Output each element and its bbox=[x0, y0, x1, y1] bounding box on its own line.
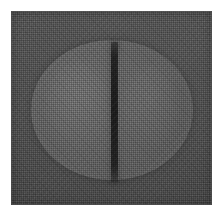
disc-highlight-right bbox=[123, 65, 179, 147]
score-line-edge-highlight bbox=[118, 44, 121, 178]
photo-plate bbox=[11, 11, 212, 205]
scan-page bbox=[0, 0, 224, 216]
disc-highlight-left bbox=[45, 61, 107, 149]
vertical-score-line bbox=[111, 42, 118, 182]
